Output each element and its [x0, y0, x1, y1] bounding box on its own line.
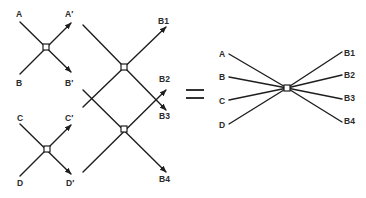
label-b2: B2	[159, 74, 170, 84]
equivalent-network	[229, 52, 342, 124]
junction-node-combined	[284, 85, 290, 91]
label-d-prime: D′	[66, 178, 74, 188]
label-d: D	[17, 178, 23, 188]
label-c: C	[17, 113, 23, 123]
line-right-b1	[287, 52, 342, 88]
label-b4: B4	[159, 174, 170, 184]
junction-group-cd	[20, 124, 71, 176]
label-b-prime: B′	[65, 78, 73, 88]
label-right-b3: B3	[344, 93, 355, 103]
label-right-b: B	[219, 72, 225, 82]
junction-node-cd	[44, 146, 50, 152]
junction-group-ab	[20, 22, 71, 74]
label-right-b2: B2	[344, 70, 355, 80]
label-right-b4: B4	[344, 116, 355, 126]
label-a-prime: A′	[65, 9, 73, 19]
label-b1: B1	[158, 16, 169, 26]
junction-node-bottom	[121, 126, 127, 132]
label-right-d: D	[219, 120, 225, 130]
label-right-b1: B1	[344, 48, 355, 58]
junction-node-top	[121, 64, 127, 70]
label-c-prime: C′	[65, 113, 73, 123]
label-a: A	[16, 9, 22, 19]
line-right-b2	[287, 75, 342, 88]
junction-group-bottom	[83, 90, 166, 172]
label-right-a: A	[219, 49, 225, 59]
label-b3: B3	[159, 111, 170, 121]
label-right-c: C	[219, 96, 225, 106]
network-diagram: A A′ B B′ C C′ D D′ B1 B2 B3 B4 A B C D …	[0, 0, 366, 198]
equals-sign	[186, 90, 204, 98]
junction-group-top	[83, 25, 166, 110]
label-b: B	[16, 78, 22, 88]
junction-node-ab	[43, 44, 49, 50]
